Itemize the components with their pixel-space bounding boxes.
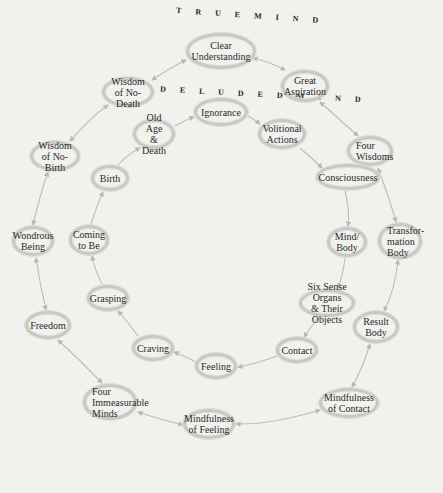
node-old-age-death: Old Age & Death — [133, 119, 175, 149]
arrow-grasping-comingtobe — [92, 256, 102, 284]
node-six-sense-organs: Six Sense Organs & Their Objects — [299, 289, 355, 317]
arrow-freedom-wondrous — [36, 258, 46, 310]
arrow-transform-result — [384, 260, 398, 311]
node-ignorance: Ignorance — [194, 98, 248, 126]
node-mindfulness-of-contact: Mindfulness of Contact — [319, 388, 379, 418]
arrow-nobirth-nodeath — [70, 105, 108, 141]
arrow-consciousness-mindbody — [345, 191, 349, 226]
arrow-comingtobe-birth — [91, 192, 103, 224]
node-craving: Craving — [132, 335, 174, 361]
node-wisdom-of-no-birth: Wisdom of No-Birth — [30, 141, 80, 171]
arrow-fourim-freedom — [58, 340, 102, 383]
node-mindfulness-of-feeling: Mindfulness of Feeling — [183, 409, 235, 439]
node-four-immeasurable-minds: Four Immeasurable Minds — [83, 384, 137, 420]
arrow-clear-great — [253, 58, 285, 70]
node-wondrous-being: Wondrous Being — [12, 226, 54, 256]
arrow-great-four — [320, 102, 358, 136]
node-birth: Birth — [91, 165, 129, 191]
node-wisdom-of-no-death: Wisdom of No-Death — [102, 77, 154, 107]
arrow-result-mcontact — [352, 344, 370, 387]
node-mind-body: Mind/ Body — [327, 227, 367, 257]
node-result-body: Result Body — [353, 311, 399, 343]
arrow-oldage-ignorance — [175, 117, 194, 126]
arrow-contact-feeling — [238, 356, 277, 367]
node-transformation-body: Transfor- mation Body — [378, 223, 422, 259]
node-freedom: Freedom — [25, 311, 71, 339]
node-contact: Contact — [276, 337, 318, 363]
node-four-wisdoms: Four Wisdoms — [347, 136, 393, 166]
arrow-four-transform — [378, 168, 396, 222]
arrow-birth-oldage — [118, 148, 140, 165]
node-feeling: Feeling — [195, 353, 237, 379]
arrow-feeling-craving — [174, 352, 196, 362]
node-volitional-actions: Volitional Actions — [258, 119, 306, 149]
arrow-craving-grasping — [118, 311, 138, 336]
arrow-wondrous-nobirth — [33, 172, 48, 225]
node-clear-understanding: Clear Understanding — [186, 33, 256, 69]
node-consciousness: Consciousness — [316, 164, 380, 190]
arrow-ignorance-volitional — [248, 116, 260, 124]
node-grasping: Grasping — [87, 285, 129, 311]
arrow-volitional-consciousness — [300, 148, 322, 168]
node-coming-to-be: Coming to Be — [69, 225, 109, 255]
arrow-mcontact-mfeeling — [236, 410, 320, 424]
node-great-aspiration: Great Aspiration — [281, 70, 329, 102]
arrow-nodeath-clear — [152, 60, 186, 80]
